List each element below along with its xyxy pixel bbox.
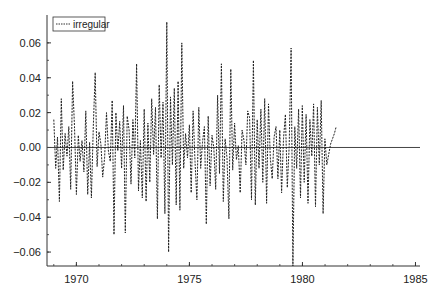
x-tick-label: 1975 bbox=[177, 273, 201, 285]
x-tick-label: 1970 bbox=[64, 273, 88, 285]
y-tick-label: 0.00 bbox=[20, 141, 41, 153]
y-tick-label: −0.02 bbox=[13, 176, 41, 188]
y-tick-label: 0.02 bbox=[20, 107, 41, 119]
series-irregular-line bbox=[54, 22, 336, 266]
legend-label: irregular bbox=[73, 19, 110, 30]
irregular-line-chart: −0.06−0.04−0.020.000.020.040.06197019751… bbox=[0, 0, 444, 295]
legend: irregular bbox=[53, 17, 110, 31]
y-tick-label: 0.06 bbox=[20, 37, 41, 49]
y-tick-label: −0.04 bbox=[13, 211, 41, 223]
y-tick-label: −0.06 bbox=[13, 246, 41, 258]
y-tick-label: 0.04 bbox=[20, 72, 41, 84]
x-tick-label: 1980 bbox=[290, 273, 314, 285]
x-tick-label: 1985 bbox=[403, 273, 427, 285]
